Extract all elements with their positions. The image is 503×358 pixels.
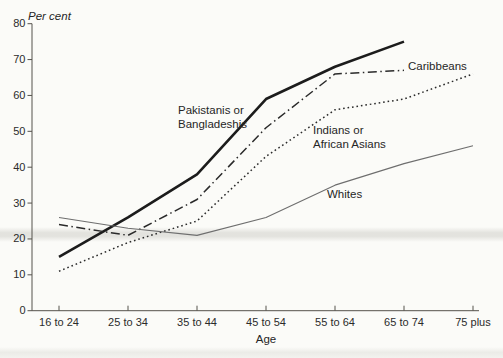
- y-tick-label: 60: [13, 89, 25, 101]
- y-tick-label: 10: [13, 268, 25, 280]
- x-axis-title: Age: [240, 333, 292, 345]
- x-tick-label: 16 to 24: [39, 316, 79, 328]
- y-tick-label: 30: [13, 197, 25, 209]
- y-tick-label: 70: [13, 53, 25, 65]
- x-tick-label: 45 to 54: [246, 316, 286, 328]
- series-label-whites: Whites: [327, 188, 362, 202]
- x-tick-label: 75 plus: [455, 316, 491, 328]
- y-tick-label: 40: [13, 161, 25, 173]
- series-label-caribbeans: Caribbeans: [408, 60, 467, 74]
- y-tick-label: 80: [13, 17, 25, 29]
- series-label-line: Bangladeshis: [178, 118, 247, 132]
- x-tick-label: 25 to 34: [108, 316, 148, 328]
- y-tick-label: 20: [13, 232, 25, 244]
- x-tick-label: 35 to 44: [177, 316, 217, 328]
- series-line-indians-african-asians: [59, 74, 473, 271]
- line-chart: 0102030405060708016 to 2425 to 3435 to 4…: [0, 0, 503, 358]
- series-label-line: Indians or: [313, 124, 386, 138]
- y-axis-title: Per cent: [28, 10, 71, 22]
- series-label-line: African Asians: [313, 138, 386, 152]
- series-line-caribbeans: [59, 70, 404, 235]
- series-label-pakistanis-bangladeshis: Pakistanis or Bangladeshis: [178, 104, 247, 131]
- x-tick-label: 65 to 74: [384, 316, 424, 328]
- y-tick-label: 50: [13, 125, 25, 137]
- chart-plot-area: 0102030405060708016 to 2425 to 3435 to 4…: [0, 0, 503, 358]
- series-label-line: Pakistanis or: [178, 104, 247, 118]
- y-tick-label: 0: [19, 304, 25, 316]
- series-label-indians-african-asians: Indians or African Asians: [313, 124, 386, 151]
- x-tick-label: 55 to 64: [315, 316, 355, 328]
